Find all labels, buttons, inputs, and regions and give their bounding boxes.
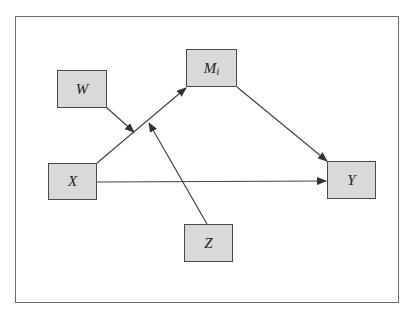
node-w: W (57, 70, 107, 108)
node-z-label: Z (204, 235, 212, 252)
edge-m-to-y (237, 87, 327, 161)
node-z: Z (184, 224, 233, 262)
node-m-label: M (204, 60, 217, 77)
edge-z-moderator (149, 123, 207, 224)
node-y: Y (327, 161, 376, 199)
node-m: Mi (186, 49, 237, 87)
node-x-label: X (68, 173, 77, 190)
node-m-subscript: i (216, 65, 219, 77)
node-y-label: Y (347, 172, 355, 189)
edge-w-moderator (106, 107, 134, 132)
edge-x-to-y (97, 181, 326, 182)
edge-x-to-m (97, 88, 186, 163)
node-x: X (48, 163, 97, 200)
node-w-label: W (76, 81, 89, 98)
diagram-edges (0, 0, 412, 316)
